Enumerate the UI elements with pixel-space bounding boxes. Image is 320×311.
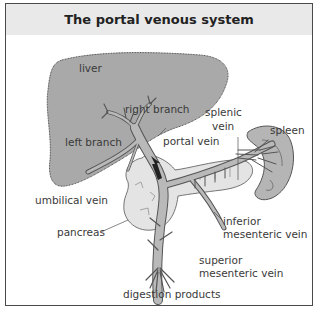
label-digestion-products: digestion products (123, 288, 220, 300)
label-pancreas: pancreas (57, 226, 105, 238)
label-spleen: spleen (270, 124, 305, 136)
spleen-shape (247, 126, 293, 200)
label-splenic-vein-line1: splenic (205, 106, 242, 118)
label-liver: liver (79, 62, 103, 74)
label-inferior-mesenteric-line1: inferior (223, 215, 261, 227)
label-superior-mesenteric-line2: mesenteric vein (199, 267, 283, 279)
pancreas-leader (101, 220, 128, 232)
label-superior-mesenteric-line1: superior (199, 254, 243, 266)
label-right-branch: right branch (125, 103, 190, 115)
label-umbilical-vein: umbilical vein (35, 194, 108, 206)
label-inferior-mesenteric-line2: mesenteric vein (223, 228, 307, 240)
label-splenic-vein-line2: vein (212, 120, 234, 132)
label-left-branch: left branch (65, 136, 122, 148)
label-portal-vein: portal vein (163, 135, 219, 147)
portal-venous-system-illustration: liver right branch left branch splenic v… (0, 0, 320, 311)
